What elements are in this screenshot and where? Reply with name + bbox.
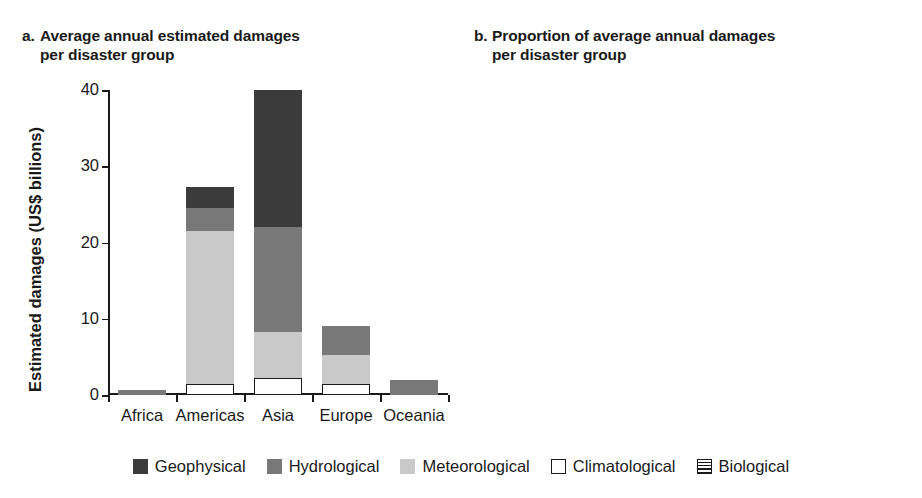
y-tick-mark [102,166,108,168]
panel-a-y-axis-label: Estimated damages (US$ billions) [26,127,45,392]
legend-item-meteorological[interactable]: Meteorological [400,457,529,476]
legend: GeophysicalHydrologicalMeteorologicalCli… [0,446,922,486]
panel-a-title-line2: per disaster group [40,45,452,64]
y-tick-label: 0 [90,385,99,404]
bar-segment-hydrological[interactable] [118,390,166,395]
bar-oceania[interactable] [390,380,438,395]
panel-a-label: a. [22,26,40,45]
legend-item-geophysical[interactable]: Geophysical [133,457,246,476]
bar-segment-geophysical[interactable] [254,90,302,227]
bar-segment-climatological[interactable] [254,378,302,395]
y-tick-mark [102,243,108,245]
x-tick-mark [244,395,246,402]
bar-segment-geophysical[interactable] [186,187,234,208]
horizontal-striped-square-icon [697,459,712,474]
bar-segment-meteorological[interactable] [254,332,302,379]
bar-segment-climatological[interactable] [322,384,370,395]
x-tick-label-americas: Americas [176,406,245,425]
bar-segment-meteorological[interactable] [322,355,370,385]
y-tick-label: 20 [81,233,99,252]
outlined-white-square-icon [551,459,566,474]
panel-a-title-line1: Average annual estimated damages [40,27,300,44]
legend-label-geophysical: Geophysical [155,457,246,476]
y-tick-label: 30 [81,156,99,175]
bar-segment-hydrological[interactable] [254,227,302,331]
panel-a: a.Average annual estimated damages per d… [0,0,462,440]
x-tick-mark [448,395,450,402]
x-tick-mark [380,395,382,402]
figure-root: a.Average annual estimated damages per d… [0,0,922,498]
panel-a-plot-area: 010203040 AfricaAmericasAsiaEuropeOceani… [108,90,448,395]
panel-a-y-axis-line [108,90,110,395]
bar-segment-hydrological[interactable] [390,380,438,395]
bar-segment-meteorological[interactable] [186,231,234,384]
legend-item-climatological[interactable]: Climatological [551,457,676,476]
x-tick-label-oceania: Oceania [383,406,444,425]
bar-segment-hydrological[interactable] [186,208,234,231]
x-tick-mark [108,395,110,402]
panel-b-title: b.Proportion of average annual damages p… [474,26,914,64]
y-tick-label: 10 [81,309,99,328]
legend-label-hydrological: Hydrological [289,457,380,476]
bar-segment-hydrological[interactable] [322,326,370,354]
legend-item-biological[interactable]: Biological [697,457,790,476]
x-tick-label-europe: Europe [319,406,372,425]
legend-label-biological: Biological [719,457,790,476]
y-tick-mark [102,319,108,321]
panel-a-title: a.Average annual estimated damages per d… [22,26,452,64]
panel-b-title-line2: per disaster group [492,45,914,64]
bar-europe[interactable] [322,326,370,395]
bar-segment-climatological[interactable] [186,384,234,395]
bar-asia[interactable] [254,90,302,395]
panel-b-label: b. [474,26,492,45]
x-tick-mark [312,395,314,402]
x-tick-mark [176,395,178,402]
legend-item-hydrological[interactable]: Hydrological [267,457,380,476]
solid-light-gray-square-icon [400,459,415,474]
x-tick-label-africa: Africa [121,406,163,425]
solid-mid-gray-square-icon [267,459,282,474]
legend-label-meteorological: Meteorological [422,457,529,476]
panel-b: b.Proportion of average annual damages p… [460,0,922,440]
y-tick-mark [102,90,108,92]
legend-label-climatological: Climatological [573,457,676,476]
solid-dark-square-icon [133,459,148,474]
bar-americas[interactable] [186,187,234,395]
bar-africa[interactable] [118,390,166,395]
x-tick-label-asia: Asia [262,406,294,425]
y-tick-label: 40 [81,80,99,99]
panel-b-title-line1: Proportion of average annual damages [492,27,775,44]
